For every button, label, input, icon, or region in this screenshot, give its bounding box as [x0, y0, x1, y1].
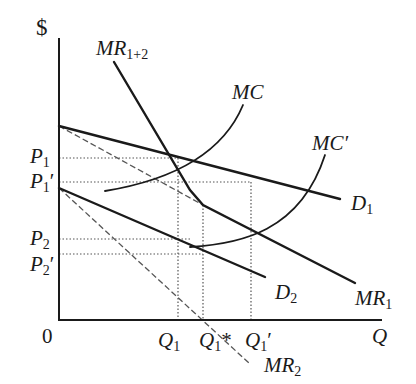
- p2-label: P2: [30, 228, 50, 252]
- p2prime-label: P2′: [30, 254, 54, 278]
- axes: [58, 38, 382, 321]
- mr12-label: MR1+2: [96, 38, 148, 62]
- d1-label: D1: [351, 193, 373, 217]
- mr1-dashed-segment: [59, 126, 203, 205]
- origin-label: 0: [42, 326, 53, 347]
- mc-curve: [105, 105, 243, 191]
- mcprime-label: MC′: [312, 133, 348, 154]
- d1-curve: [59, 126, 340, 199]
- p1prime-label: P1′: [30, 171, 54, 195]
- d2-curve: [59, 188, 265, 277]
- guide-lines: [59, 158, 251, 320]
- q1-label: Q1: [158, 330, 180, 354]
- d2-label: D2: [275, 282, 297, 306]
- q1star-label: Q1*: [199, 330, 232, 354]
- mc-label: MC: [232, 82, 264, 103]
- solid-curves: [59, 62, 355, 283]
- mr1-label: MR1: [355, 288, 392, 312]
- y-axis-label: $: [36, 16, 48, 39]
- q1prime-label: Q1′: [245, 330, 272, 354]
- mr2-label: MR2: [264, 355, 301, 379]
- x-axis-label: Q: [372, 326, 387, 347]
- mcprime-curve: [190, 155, 325, 247]
- p1-label: P1: [30, 146, 50, 170]
